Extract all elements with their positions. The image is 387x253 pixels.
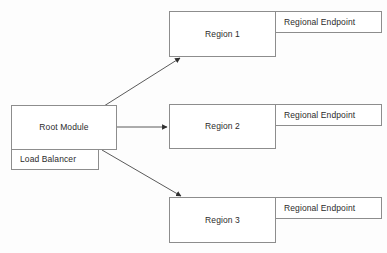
node-endpoint-3-label: Regional Endpoint bbox=[284, 204, 355, 213]
node-endpoint-1[interactable]: Regional Endpoint bbox=[275, 11, 382, 33]
node-endpoint-3[interactable]: Regional Endpoint bbox=[275, 197, 382, 219]
node-root-module[interactable]: Root Module bbox=[11, 105, 117, 150]
node-endpoint-1-label: Regional Endpoint bbox=[284, 18, 355, 27]
node-endpoint-2[interactable]: Regional Endpoint bbox=[275, 104, 382, 126]
diagram-canvas: Root Module Load Balancer Region 1 Regio… bbox=[0, 0, 387, 253]
node-load-balancer-label: Load Balancer bbox=[20, 155, 76, 164]
node-root-module-label: Root Module bbox=[39, 123, 88, 132]
node-region-1[interactable]: Region 1 bbox=[169, 11, 276, 57]
edge-root-to-region-3 bbox=[102, 150, 181, 196]
node-region-1-label: Region 1 bbox=[205, 30, 240, 39]
node-region-2[interactable]: Region 2 bbox=[169, 104, 276, 149]
node-region-3-label: Region 3 bbox=[205, 216, 240, 225]
node-region-2-label: Region 2 bbox=[205, 122, 240, 131]
node-load-balancer[interactable]: Load Balancer bbox=[11, 149, 99, 170]
edge-root-to-region-1 bbox=[104, 58, 180, 106]
node-endpoint-2-label: Regional Endpoint bbox=[284, 111, 355, 120]
node-region-3[interactable]: Region 3 bbox=[169, 197, 276, 243]
